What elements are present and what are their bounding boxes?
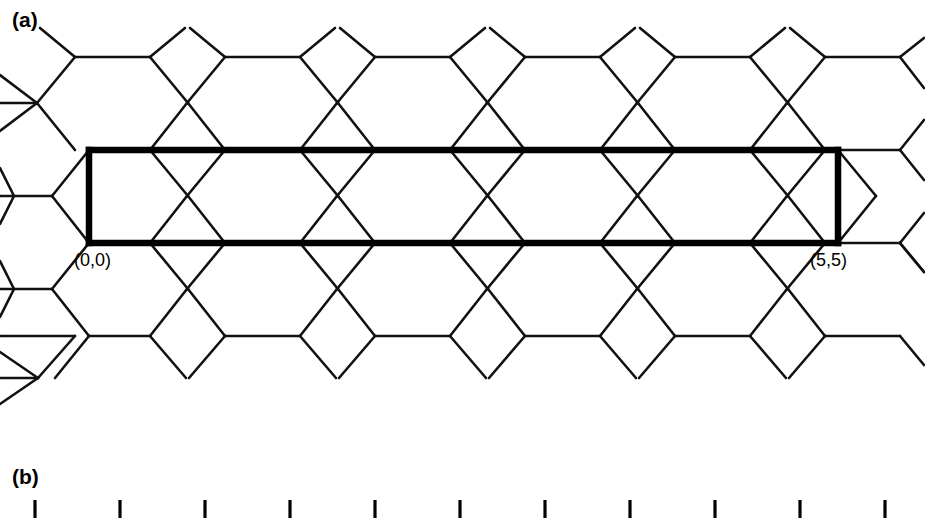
- honeycomb-lattice: [0, 0, 925, 430]
- coordinate-label-origin: (0,0): [74, 250, 111, 271]
- coordinate-label-end: (5,5): [810, 250, 847, 271]
- lattice-bonds: [0, 28, 924, 404]
- unit-cell-rectangle: [89, 150, 838, 243]
- tick-group: [35, 500, 885, 518]
- panel-label-b: (b): [12, 465, 39, 489]
- tick-mark-ruler: [0, 497, 925, 522]
